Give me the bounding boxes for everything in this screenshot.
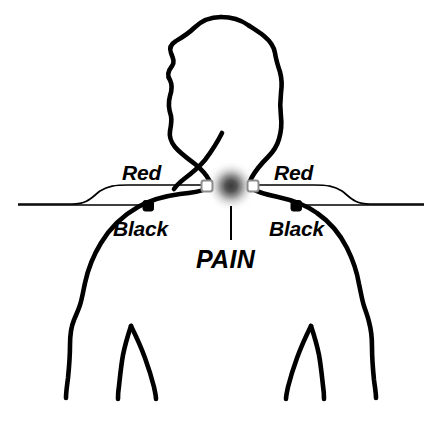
- label-black-left: Black: [113, 217, 170, 240]
- body-diagram-canvas: Red Red Black Black PAIN: [0, 0, 442, 431]
- electrode-placement-diagram: Red Red Black Black PAIN: [0, 0, 442, 431]
- electrode-red-left[interactable]: [202, 181, 213, 192]
- electrode-black-left[interactable]: [143, 201, 154, 212]
- electrode-black-right[interactable]: [291, 201, 302, 212]
- label-pain: PAIN: [196, 245, 256, 273]
- diagram-background: [0, 0, 442, 431]
- label-red-left: Red: [122, 161, 162, 184]
- label-red-right: Red: [274, 161, 314, 184]
- label-black-right: Black: [269, 217, 326, 240]
- electrode-red-right[interactable]: [248, 181, 259, 192]
